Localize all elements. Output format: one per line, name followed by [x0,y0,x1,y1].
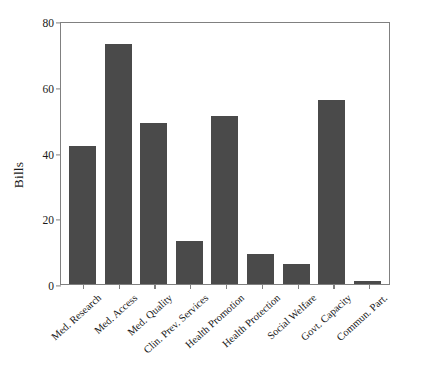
bar [140,123,167,284]
x-tick-mark [154,284,155,289]
bar [283,264,310,284]
plot-area: 020406080 [60,22,390,285]
x-axis-labels: Med. ResearchMed. AccessMed. QualityClin… [60,292,390,374]
x-tick-mark [369,284,370,289]
x-tick-label: Med. Research [49,292,103,342]
x-tick-mark [226,284,227,289]
x-tick-mark [333,284,334,289]
bar [354,281,381,284]
bar [318,100,345,284]
x-tick-mark [83,284,84,289]
x-tick-mark [119,284,120,289]
x-tick-mark [298,284,299,289]
bars-container [61,23,389,284]
bar [69,146,96,284]
bar [247,254,274,284]
y-tick-mark [56,285,61,286]
x-tick-label: Clin. Prev. Services [142,292,211,356]
x-tick-mark [262,284,263,289]
bar-chart-figure: Bills 020406080 Med. ResearchMed. Access… [0,0,427,374]
bar [176,241,203,284]
bar [105,44,132,284]
x-tick-mark [190,284,191,289]
bar [211,116,238,284]
